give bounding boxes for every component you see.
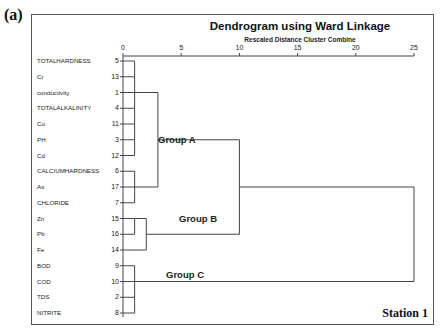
- station-label: Station 1: [382, 306, 428, 321]
- group-b-label: Group B: [179, 213, 217, 224]
- group-c-label: Group C: [166, 269, 204, 280]
- group-a-label: Group A: [158, 134, 196, 145]
- dendrogram-plot: [0, 0, 442, 333]
